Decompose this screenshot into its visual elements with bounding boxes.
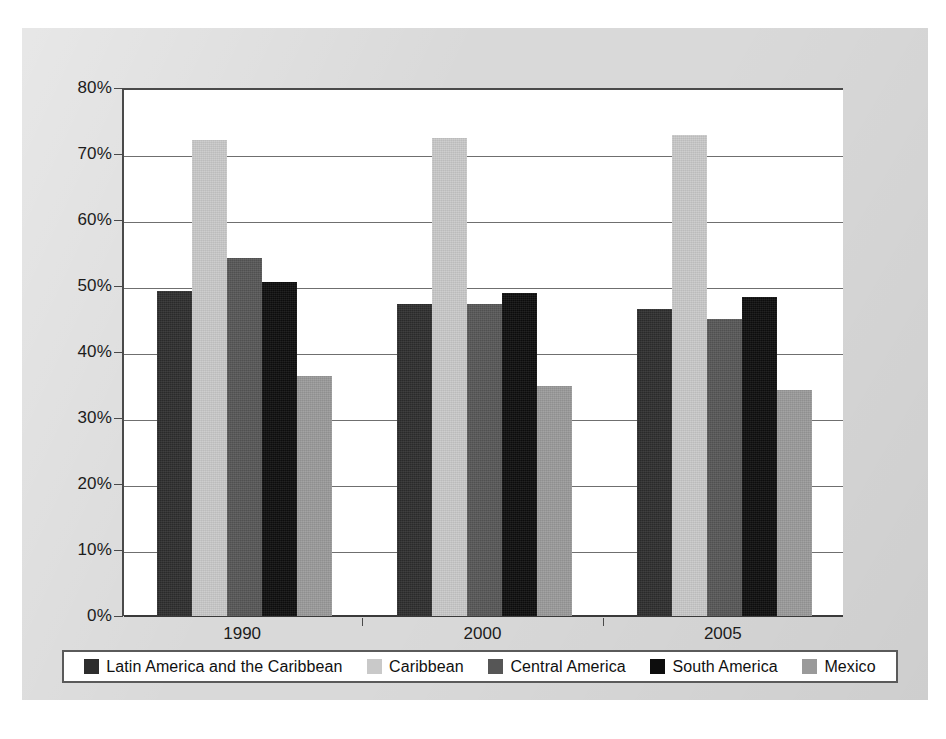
plot-area [122,88,843,616]
y-axis-tick-mark [114,418,123,419]
y-axis-tick-label: 70% [77,144,112,164]
bar-group-1990 [157,90,332,616]
y-axis-tick-labels: 0%10%20%30%40%50%60%70%80% [38,88,112,616]
legend-swatch-icon [802,659,817,674]
bar [707,319,742,616]
chart-legend: Latin America and the CaribbeanCaribbean… [62,650,898,683]
bar [262,282,297,616]
plot-wrapper [122,88,843,616]
y-axis-tick-label: 20% [77,474,112,494]
y-axis-tick-mark [114,550,123,551]
bar [397,304,432,616]
x-axis-tick-mark [362,618,363,626]
x-axis-tick-label-2000: 2000 [464,624,502,644]
bar [502,293,537,616]
y-axis-tick-mark [114,352,123,353]
bar [467,304,502,616]
y-axis-tick-mark [114,286,123,287]
legend-swatch-icon [367,659,382,674]
legend-swatch-icon [84,659,99,674]
legend-label: Central America [510,658,625,676]
y-axis-tick-label: 0% [87,606,112,626]
x-axis-tick-label-2005: 2005 [704,624,742,644]
legend-label: Caribbean [389,658,464,676]
x-axis-tick-mark [603,618,604,626]
x-axis-tick-label-1990: 1990 [223,624,261,644]
bar [157,291,192,616]
bar [637,309,672,616]
y-axis-tick-mark [114,88,123,89]
legend-item[interactable]: Caribbean [367,658,464,676]
bar [192,140,227,616]
bar [297,376,332,616]
bar [777,390,812,616]
legend-label: Mexico [824,658,875,676]
legend-item[interactable]: Central America [488,658,625,676]
legend-label: South America [672,658,777,676]
bar-group-2005 [637,90,812,616]
x-axis-tick-labels: 199020002005 [122,620,843,650]
bar-group-2000 [397,90,572,616]
y-axis-tick-label: 50% [77,276,112,296]
y-axis-tick-label: 30% [77,408,112,428]
y-axis-tick-label: 80% [77,78,112,98]
legend-swatch-icon [488,659,503,674]
bar [672,135,707,616]
y-axis-tick-mark [114,220,123,221]
figure-page: 0%10%20%30%40%50%60%70%80% 199020002005 … [0,0,946,739]
y-axis-tick-label: 60% [77,210,112,230]
y-axis-tick-label: 10% [77,540,112,560]
bar [227,258,262,616]
legend-label: Latin America and the Caribbean [106,658,342,676]
y-axis-tick-mark [114,616,123,617]
legend-item[interactable]: South America [650,658,777,676]
legend-swatch-icon [650,659,665,674]
bar [432,138,467,617]
bar [742,297,777,616]
bar [537,386,572,616]
y-axis-tick-label: 40% [77,342,112,362]
y-axis-tick-mark [114,484,123,485]
legend-item[interactable]: Mexico [802,658,875,676]
y-axis-tick-mark [114,154,123,155]
legend-item[interactable]: Latin America and the Caribbean [84,658,342,676]
